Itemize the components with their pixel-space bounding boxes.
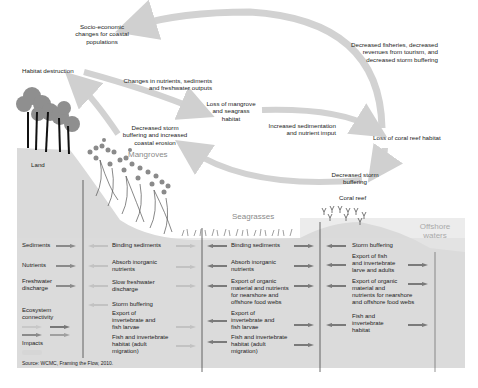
text-line: Decreased storm <box>320 171 390 178</box>
mangroves-cell: Binding sediments <box>112 242 161 249</box>
text-line: nutrients <box>112 266 157 273</box>
text-line: Offshore <box>410 222 460 231</box>
impact-swatch-icon <box>22 350 42 355</box>
mangroves-cell: Slow freshwater discharge <box>112 279 155 293</box>
legend-nutrients: Nutrients <box>22 262 46 269</box>
text-line: Freshwater <box>22 278 52 285</box>
text-line: and offshore food webs <box>352 299 414 306</box>
node-loss-coral: Loss of coral reef habitat <box>373 134 441 141</box>
mangroves-cell: Export of invertebrate and fish larvae <box>112 310 155 331</box>
text-line: Export of fish <box>352 253 395 260</box>
node-decreased-storm: Decreased storm buffering <box>320 171 390 186</box>
text-line: material and <box>352 285 414 292</box>
zone-land: Land <box>31 161 45 168</box>
text-line: invertebrate and <box>231 317 274 324</box>
text-line: Loss of mangrove <box>196 100 266 107</box>
text-line: connectivity <box>22 314 53 321</box>
node-increased-sedimentation: Increased sedimentation and nutrient imp… <box>250 122 336 137</box>
text-line: and seagrass <box>196 107 266 114</box>
text-line: changes for coastal <box>52 30 152 37</box>
text-line: populations <box>52 38 152 45</box>
text-line: fish larvae <box>112 324 155 331</box>
mangroves-cell: Fish and invertebrate habitat (adult mig… <box>112 334 168 355</box>
zone-mangroves: Mangroves <box>128 150 168 159</box>
text-line: nutrients for nearshore <box>352 292 414 299</box>
text-line: Slow freshwater <box>112 279 155 286</box>
text-line: habitat <box>352 327 384 334</box>
text-line: Decreased fisheries, decreased <box>340 41 438 48</box>
text-line: for nearshore and <box>231 292 289 299</box>
mangroves-cell: Storm buffering <box>112 301 153 308</box>
node-loss-mangrove: Loss of mangrove and seagrass habitat <box>196 100 266 122</box>
node-changes-nutrients: Changes in nutrients, sediments and fres… <box>110 77 212 92</box>
legend-freshwater: Freshwater discharge <box>22 278 52 292</box>
node-decreased-fisheries: Decreased fisheries, decreased revenues … <box>340 41 438 63</box>
zone-seagrasses: Seagrasses <box>232 212 274 221</box>
seagrasses-cell: Binding sediments <box>231 242 280 249</box>
text-line: invertebrate and <box>112 317 155 324</box>
text-line: Changes in nutrients, sediments <box>110 77 212 84</box>
text-line: buffering and increased <box>110 131 200 138</box>
text-line: Fish and invertebrate <box>231 334 287 341</box>
text-line: fish larvae <box>231 324 274 331</box>
mangroves-cell: Absorb inorganic nutrients <box>112 259 157 273</box>
legend-sediments: Sediments <box>22 242 50 249</box>
text-line: Fish and <box>352 313 384 320</box>
text-line: Export of organic <box>231 278 289 285</box>
text-line: larve and adults <box>352 267 395 274</box>
text-line: Absorb inorganic <box>112 259 157 266</box>
text-line: Export of <box>231 310 274 317</box>
text-line: Ecosystem <box>22 307 53 314</box>
node-decreased-storm-erosion: Decreased storm buffering and increased … <box>110 124 200 146</box>
seagrasses-cell: Export of invertebrate and fish larvae <box>231 310 274 331</box>
text-line: Export of <box>112 310 155 317</box>
text-line: waters <box>410 231 460 240</box>
legend-ecosystem: Ecosystem connectivity <box>22 307 53 321</box>
text-line: nutrients <box>231 266 276 273</box>
text-line: Export of organic <box>352 278 414 285</box>
text-line: habitat (adult <box>112 341 168 348</box>
source-note: Source: WCMC, Framing the Flow, 2010. <box>22 360 113 367</box>
text-line: Fish and invertebrate <box>112 334 168 341</box>
text-line: discharge <box>22 285 52 292</box>
coral-cell: Export of fish and invertebrate larve an… <box>352 253 395 274</box>
text-line: and nutrient imput <box>250 129 336 136</box>
text-line: Decreased storm <box>110 124 200 131</box>
node-habitat-destruction: Habitat destruction <box>22 67 74 74</box>
text-line: offshore food webs <box>231 299 289 306</box>
seagrasses-cell: Export of organic material and nutrients… <box>231 278 289 306</box>
text-line: coastal erosion <box>110 139 200 146</box>
text-line: Absorb inorganic <box>231 259 276 266</box>
seagrasses-cell: Fish and invertebrate habitat (adult mig… <box>231 334 287 355</box>
seagrasses-cell: Absorb inorganic nutrients <box>231 259 276 273</box>
text-line: buffering <box>320 178 390 185</box>
text-line: discharge <box>112 286 155 293</box>
text-line: revenues from tourism, and <box>340 48 438 55</box>
text-line: material and nutrients <box>231 285 289 292</box>
text-line: migration) <box>112 348 168 355</box>
text-line: Socio-economic <box>52 23 152 30</box>
text-line: migration) <box>231 348 287 355</box>
text-line: Increased sedimentation <box>250 122 336 129</box>
text-line: and invertebrate <box>352 260 395 267</box>
text-line: habitat (adult <box>231 341 287 348</box>
coral-cell: Storm buffering <box>352 242 393 249</box>
zone-coral-reef: Coral reef <box>339 194 366 201</box>
legend-impacts: Impacts <box>22 340 43 347</box>
zone-offshore: Offshore waters <box>410 222 460 240</box>
node-socio-economic: Socio-economic changes for coastal popul… <box>52 23 152 45</box>
coral-cell: Fish and invertebrate habitat <box>352 313 384 334</box>
coral-cell: Export of organic material and nutrients… <box>352 278 414 306</box>
text-line: invertebrate <box>352 320 384 327</box>
text-line: decreased storm buffering <box>340 56 438 63</box>
text-line: and freshwater outputs <box>110 84 212 91</box>
